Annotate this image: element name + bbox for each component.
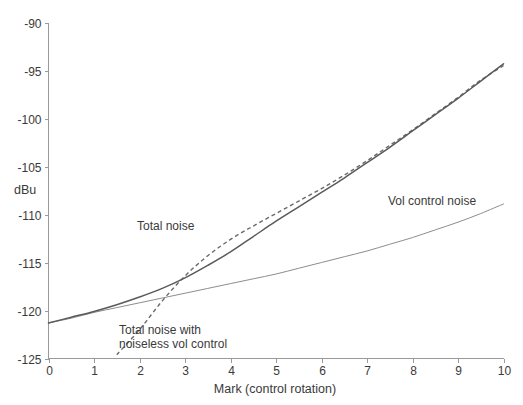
y-axis-title: dBu <box>14 183 36 197</box>
noise-vs-mark-line-chart: -90-95-100-105-110-115-120-125 012345678… <box>0 0 523 405</box>
x-tick-label: 10 <box>498 364 512 378</box>
x-tick-label: 7 <box>364 364 371 378</box>
y-tick-label: -100 <box>17 113 41 127</box>
x-tick-label: 1 <box>91 364 98 378</box>
x-axis-title: Mark (control rotation) <box>214 382 336 396</box>
x-tick-label: 3 <box>182 364 189 378</box>
annotation-noiseless-line-1: Total noise with <box>119 323 201 337</box>
y-tick-label: -110 <box>18 209 41 223</box>
annotation-vol-control-noise: Vol control noise <box>388 194 476 208</box>
x-tick-label: 0 <box>46 364 53 378</box>
y-tick-label: -90 <box>24 17 42 31</box>
chart-page: -90-95-100-105-110-115-120-125 012345678… <box>0 0 523 405</box>
x-tick-label: 4 <box>228 364 235 378</box>
y-tick-label: -125 <box>17 353 41 367</box>
x-tick-label: 2 <box>137 364 144 378</box>
x-tick-label: 6 <box>319 364 326 378</box>
x-tick-label: 9 <box>455 364 462 378</box>
x-tick-label: 8 <box>410 364 417 378</box>
series-line-total-noise-noiseless-vol-control <box>117 66 504 355</box>
x-axis-ticks <box>50 359 505 363</box>
annotation-noiseless-line-2: noiseless vol control <box>119 337 227 351</box>
x-tick-label: 5 <box>273 364 280 378</box>
annotation-total-noise: Total noise <box>137 219 195 233</box>
x-axis-tick-labels: 012345678910 <box>46 364 511 378</box>
y-tick-label: -95 <box>24 65 42 79</box>
y-axis-ticks <box>45 24 49 360</box>
y-tick-label: -105 <box>17 161 41 175</box>
y-tick-label: -115 <box>18 257 41 271</box>
y-tick-label: -120 <box>17 305 41 319</box>
